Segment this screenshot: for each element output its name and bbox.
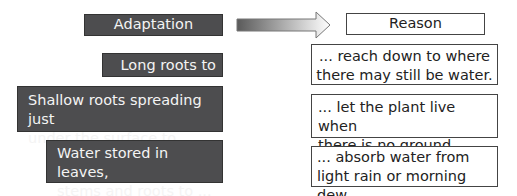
reason-text-line1: ... let the plant live when — [318, 98, 497, 136]
reason-header: Reason — [346, 13, 485, 35]
adaptation-text-line2: stems and roots to ... — [57, 182, 222, 196]
reason-text-line1: ... reach down to where — [312, 47, 497, 66]
adaptation-long-roots: Long roots to ... — [102, 53, 223, 77]
right-arrow-icon — [236, 10, 332, 40]
reason-text-line2: there may still be water. — [312, 66, 497, 85]
reason-reach-down: ... reach down to where there may still … — [311, 44, 498, 85]
adaptation-text-line1: Shallow roots spreading just — [28, 91, 222, 129]
reason-plant-live: ... let the plant live when there is no … — [311, 94, 498, 138]
reason-text-line1: ... absorb water from — [317, 148, 497, 167]
adaptation-water-stored: Water stored in leaves, stems and roots … — [46, 140, 223, 183]
adaptation-shallow-roots: Shallow roots spreading just under the s… — [17, 86, 223, 132]
reason-text-line2: light rain or morning dew. — [317, 167, 497, 196]
adaptation-text-line1: Water stored in leaves, — [57, 144, 222, 182]
reason-absorb-water: ... absorb water from light rain or morn… — [311, 146, 498, 187]
adaptation-header: Adaptation — [84, 14, 223, 36]
